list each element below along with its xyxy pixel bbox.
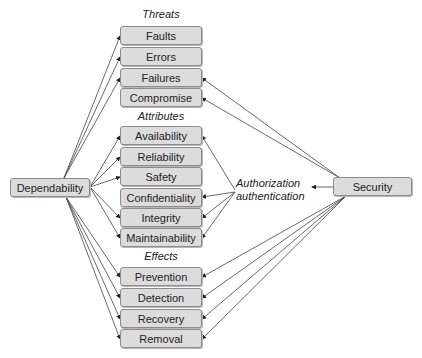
attributes-title: Attributes: [120, 110, 202, 122]
attribute-safety: Safety: [120, 167, 202, 186]
authentication-text: authentication: [236, 190, 316, 203]
attribute-reliability: Reliability: [120, 147, 202, 166]
security-node: Security: [333, 177, 412, 196]
attribute-integrity: Integrity: [120, 208, 202, 227]
dependability-node: Dependability: [10, 178, 90, 197]
authorization-text: Authorization: [236, 177, 316, 190]
threats-title: Threats: [120, 8, 202, 20]
threat-compromise: Compromise: [120, 88, 202, 107]
threat-errors: Errors: [120, 47, 202, 66]
effect-recovery: Recovery: [120, 309, 202, 328]
attribute-confidentiality: Confidentiality: [120, 188, 202, 207]
effect-prevention: Prevention: [120, 267, 202, 286]
threat-faults: Faults: [120, 26, 202, 45]
attribute-maintainability: Maintainability: [120, 228, 202, 247]
security-label: Security: [353, 181, 393, 193]
dependability-label: Dependability: [17, 182, 84, 194]
attribute-availability: Availability: [120, 126, 202, 145]
effects-title: Effects: [120, 250, 202, 262]
threat-failures: Failures: [120, 68, 202, 87]
effect-removal: Removal: [120, 329, 202, 348]
effect-detection: Detection: [120, 288, 202, 307]
authorization-authentication-label: Authorization authentication: [236, 177, 316, 203]
